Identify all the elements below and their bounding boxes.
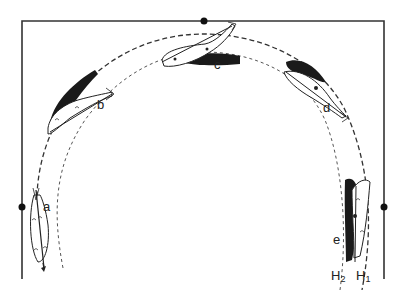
- position-label-d: d: [323, 101, 330, 114]
- position-label-e: e: [333, 233, 340, 246]
- track-label-h1-sub: 1: [365, 274, 370, 284]
- track-label-h1: H1: [356, 269, 370, 282]
- left-marker-dot: [19, 204, 26, 211]
- track-label-h2-sub: 2: [340, 274, 345, 284]
- track-label-h1-letter: H: [356, 268, 365, 283]
- position-label-b: b: [97, 98, 104, 111]
- top-marker-dot: [201, 18, 208, 25]
- arena-diagram: [0, 0, 408, 299]
- position-label-c: c: [214, 58, 221, 71]
- position-label-a: a: [43, 200, 50, 213]
- track-label-h2-letter: H: [331, 268, 340, 283]
- figure-e: [345, 179, 370, 262]
- figure-d: [284, 60, 348, 122]
- track-label-h2: H2: [331, 269, 345, 282]
- track-h1-outer: [37, 34, 369, 290]
- figure-c: [162, 22, 240, 66]
- right-marker-dot: [381, 204, 388, 211]
